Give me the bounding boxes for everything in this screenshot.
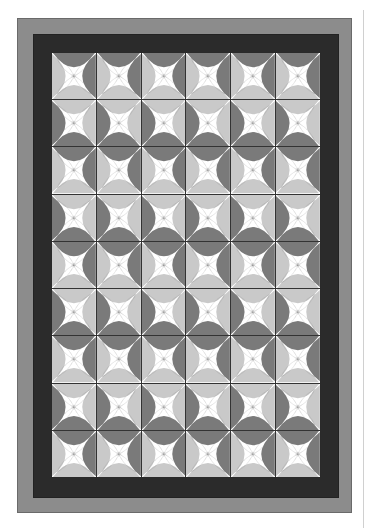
quilt-block <box>52 242 96 288</box>
melon-star-icon <box>186 100 230 146</box>
quilt-block <box>97 336 141 382</box>
quilt-block <box>231 289 275 335</box>
melon-star-icon <box>231 195 275 241</box>
melon-star-icon <box>231 242 275 288</box>
melon-star-icon <box>276 100 320 146</box>
quilt-block <box>97 384 141 430</box>
melon-star-icon <box>52 53 96 99</box>
page-edge-line <box>363 10 364 528</box>
quilt-block <box>52 336 96 382</box>
quilt-block <box>186 147 230 193</box>
quilt-block <box>186 384 230 430</box>
quilt-block <box>97 289 141 335</box>
melon-star-icon <box>276 384 320 430</box>
quilt-block <box>231 336 275 382</box>
melon-star-icon <box>142 336 186 382</box>
melon-star-icon <box>231 431 275 477</box>
quilt-block <box>142 100 186 146</box>
melon-star-icon <box>52 336 96 382</box>
melon-star-icon <box>186 195 230 241</box>
melon-star-icon <box>97 384 141 430</box>
quilt-block <box>186 336 230 382</box>
quilt-block <box>52 53 96 99</box>
quilt-block-grid <box>51 52 321 478</box>
melon-star-icon <box>97 53 141 99</box>
quilt-block <box>142 242 186 288</box>
melon-star-icon <box>142 53 186 99</box>
melon-star-icon <box>97 431 141 477</box>
quilt-block <box>186 242 230 288</box>
quilt-block <box>52 147 96 193</box>
melon-star-icon <box>186 384 230 430</box>
quilt-block <box>186 53 230 99</box>
melon-star-icon <box>97 147 141 193</box>
melon-star-icon <box>231 336 275 382</box>
quilt-block <box>231 242 275 288</box>
melon-star-icon <box>142 431 186 477</box>
melon-star-icon <box>186 242 230 288</box>
melon-star-icon <box>142 242 186 288</box>
quilt-block <box>142 147 186 193</box>
melon-star-icon <box>276 336 320 382</box>
quilt-block <box>231 53 275 99</box>
melon-star-icon <box>231 53 275 99</box>
melon-star-icon <box>52 289 96 335</box>
melon-star-icon <box>231 384 275 430</box>
melon-star-icon <box>52 195 96 241</box>
quilt-block <box>276 242 320 288</box>
melon-star-icon <box>142 100 186 146</box>
melon-star-icon <box>142 384 186 430</box>
quilt-block <box>52 100 96 146</box>
melon-star-icon <box>97 336 141 382</box>
melon-star-icon <box>276 431 320 477</box>
quilt-block <box>142 195 186 241</box>
melon-star-icon <box>142 147 186 193</box>
melon-star-icon <box>52 384 96 430</box>
quilt-block <box>276 195 320 241</box>
quilt-block <box>186 195 230 241</box>
quilt-block <box>186 431 230 477</box>
melon-star-icon <box>97 242 141 288</box>
quilt-block <box>142 53 186 99</box>
quilt-block <box>142 336 186 382</box>
quilt-block <box>97 431 141 477</box>
melon-star-icon <box>276 289 320 335</box>
melon-star-icon <box>97 289 141 335</box>
melon-star-icon <box>276 53 320 99</box>
quilt-block <box>186 289 230 335</box>
melon-star-icon <box>186 336 230 382</box>
quilt-block <box>142 289 186 335</box>
melon-star-icon <box>231 289 275 335</box>
quilt-block <box>97 195 141 241</box>
melon-star-icon <box>97 195 141 241</box>
melon-star-icon <box>186 431 230 477</box>
melon-star-icon <box>52 100 96 146</box>
quilt-block <box>97 242 141 288</box>
melon-star-icon <box>276 195 320 241</box>
quilt-block <box>231 100 275 146</box>
quilt-block <box>276 147 320 193</box>
melon-star-icon <box>186 147 230 193</box>
quilt-block <box>52 384 96 430</box>
melon-star-icon <box>97 100 141 146</box>
quilt-block <box>276 384 320 430</box>
melon-star-icon <box>142 289 186 335</box>
quilt-block <box>97 100 141 146</box>
quilt-block <box>97 147 141 193</box>
quilt-block <box>276 100 320 146</box>
quilt-block <box>231 384 275 430</box>
quilt-block <box>276 336 320 382</box>
melon-star-icon <box>276 147 320 193</box>
quilt-block <box>276 289 320 335</box>
quilt-block <box>52 195 96 241</box>
melon-star-icon <box>52 431 96 477</box>
quilt-block <box>52 289 96 335</box>
melon-star-icon <box>231 100 275 146</box>
melon-star-icon <box>52 147 96 193</box>
quilt-block <box>97 53 141 99</box>
melon-star-icon <box>186 53 230 99</box>
melon-star-icon <box>276 242 320 288</box>
quilt-block <box>142 431 186 477</box>
quilt-block <box>52 431 96 477</box>
melon-star-icon <box>142 195 186 241</box>
